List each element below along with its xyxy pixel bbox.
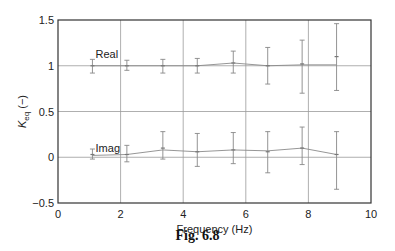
y-axis-label: Keq (−) — [16, 95, 31, 128]
axis-ticks: 0246810−0.500.511.5 — [32, 14, 377, 220]
series-label-imag: Imag — [96, 142, 120, 154]
x-tick-label: 8 — [305, 208, 311, 220]
y-tick-label: −0.5 — [32, 197, 54, 209]
x-tick-label: 4 — [180, 208, 186, 220]
series-line — [92, 63, 336, 66]
y-tick-label: 0 — [48, 151, 54, 163]
x-tick-label: 0 — [55, 208, 61, 220]
x-tick-label: 10 — [365, 208, 377, 220]
chart-plot: RealImag 0246810−0.500.511.5 Frequency (… — [0, 0, 395, 251]
series-line — [92, 148, 336, 155]
x-tick-label: 6 — [243, 208, 249, 220]
figure-caption: Fig. 6.8 — [0, 228, 395, 244]
series-label-real: Real — [96, 48, 119, 60]
series-imag: Imag — [90, 127, 339, 189]
series-layer: RealImag — [90, 24, 339, 190]
series-real: Real — [90, 24, 339, 94]
x-tick-label: 2 — [118, 208, 124, 220]
y-tick-label: 0.5 — [39, 106, 54, 118]
y-tick-label: 1 — [48, 60, 54, 72]
y-tick-label: 1.5 — [39, 14, 54, 26]
figure: RealImag 0246810−0.500.511.5 Frequency (… — [0, 0, 395, 251]
